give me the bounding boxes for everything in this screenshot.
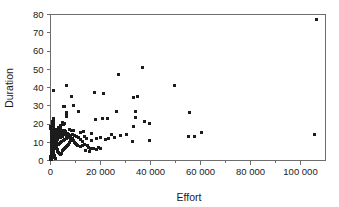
data-point xyxy=(67,133,70,136)
y-tick-label: 60 xyxy=(33,45,44,56)
data-point xyxy=(131,140,134,143)
data-point xyxy=(119,134,122,137)
data-point xyxy=(90,132,93,135)
data-point xyxy=(82,130,85,133)
data-point xyxy=(55,141,58,144)
data-point xyxy=(61,121,64,124)
x-tick-label: 100 000 xyxy=(283,166,317,177)
data-point xyxy=(92,147,95,150)
data-point xyxy=(68,141,71,144)
y-tick-label: 10 xyxy=(33,137,44,148)
x-axis-title: Effort xyxy=(177,191,202,203)
data-point xyxy=(65,115,68,118)
data-point xyxy=(134,116,137,119)
x-tick-label: 0 xyxy=(48,166,53,177)
x-tick-label: 80 000 xyxy=(236,166,265,177)
data-point xyxy=(55,145,58,148)
data-point xyxy=(115,110,118,113)
data-point xyxy=(125,133,128,136)
data-point xyxy=(99,147,102,150)
y-axis-title: Duration xyxy=(3,68,15,108)
data-point xyxy=(84,149,87,152)
data-point xyxy=(70,95,73,98)
chart-canvas: 020 00040 00060 00080 000100 000 0102030… xyxy=(0,0,339,207)
data-point xyxy=(136,95,139,98)
data-point xyxy=(65,111,68,114)
y-tick-label: 80 xyxy=(33,9,44,20)
data-points xyxy=(49,18,318,161)
data-point xyxy=(95,137,98,140)
data-point xyxy=(313,133,316,136)
data-point xyxy=(102,92,105,95)
data-point xyxy=(187,135,190,138)
data-point xyxy=(50,141,53,144)
scatter-plot-figure: 020 00040 00060 00080 000100 000 0102030… xyxy=(0,0,339,207)
data-point xyxy=(141,66,144,69)
data-point xyxy=(193,135,196,138)
data-point xyxy=(113,136,116,139)
data-point xyxy=(148,122,151,125)
data-point xyxy=(50,125,53,128)
data-point xyxy=(110,133,113,136)
y-tick-label: 20 xyxy=(33,118,44,129)
data-point xyxy=(104,138,107,141)
data-point xyxy=(132,96,135,99)
y-tick-label: 70 xyxy=(33,27,44,38)
y-tick-label: 30 xyxy=(33,100,44,111)
data-point xyxy=(52,89,55,92)
data-point xyxy=(85,137,88,140)
y-axis-tick-labels: 01020304050607080 xyxy=(33,9,44,166)
data-point xyxy=(200,131,203,134)
data-point xyxy=(134,110,137,113)
y-tick-label: 0 xyxy=(38,155,43,166)
data-point xyxy=(63,105,66,108)
data-point xyxy=(101,117,104,120)
data-point xyxy=(95,148,98,151)
data-point xyxy=(117,73,120,76)
data-point xyxy=(88,150,91,153)
x-tick-label: 60 000 xyxy=(186,166,215,177)
data-point xyxy=(81,144,84,147)
data-point xyxy=(72,104,75,107)
data-point xyxy=(50,158,53,161)
data-point xyxy=(65,84,68,87)
x-tick-label: 40 000 xyxy=(136,166,165,177)
x-tick-label: 20 000 xyxy=(86,166,115,177)
data-point xyxy=(315,18,318,21)
plot-frame xyxy=(51,15,326,161)
data-point xyxy=(51,128,54,131)
x-axis-tick-labels: 020 00040 00060 00080 000100 000 xyxy=(48,166,318,177)
data-point xyxy=(132,125,135,128)
data-point xyxy=(107,137,110,140)
data-point xyxy=(52,132,55,135)
data-point xyxy=(93,91,96,94)
x-axis-ticks xyxy=(51,161,301,165)
data-point xyxy=(99,136,102,139)
data-point xyxy=(76,144,79,147)
data-point xyxy=(148,139,151,142)
data-point xyxy=(94,118,97,121)
data-point xyxy=(68,128,71,131)
y-tick-label: 50 xyxy=(33,64,44,75)
data-point xyxy=(90,139,93,142)
data-point xyxy=(143,120,146,123)
data-point xyxy=(77,110,80,113)
y-tick-label: 40 xyxy=(33,82,44,93)
data-point xyxy=(86,144,89,147)
data-point xyxy=(173,84,176,87)
data-point xyxy=(54,157,57,160)
data-point xyxy=(188,111,191,114)
data-point xyxy=(52,118,55,121)
data-point xyxy=(106,117,109,120)
